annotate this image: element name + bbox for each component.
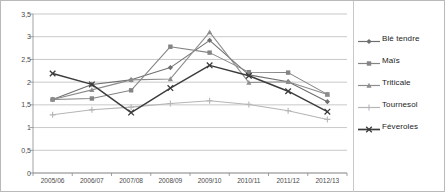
x-axis-tick-label: 2009/10 (198, 177, 222, 185)
legend-marker-icon (357, 55, 381, 66)
legend-label: Tournesol (382, 100, 418, 109)
legend-label: Triticale (382, 78, 411, 87)
x-axis-tick-label: 2005/06 (41, 177, 65, 185)
data-point-marker (50, 112, 56, 118)
y-axis-tick-label: 1,5 (5, 101, 31, 108)
legend-item-3[interactable]: Triticale (357, 71, 445, 93)
x-axis-tick-label: 2008/09 (158, 177, 182, 185)
x-axis-tick-label: 2011/12 (276, 177, 299, 185)
legend-item-5[interactable]: Féveroles (357, 115, 445, 137)
data-point-marker (366, 38, 371, 43)
x-axis-tick-label: 2010/11 (237, 177, 260, 185)
legend-label: Blé tendre (382, 34, 419, 43)
data-point-marker (367, 61, 371, 65)
data-point-marker (366, 104, 372, 110)
legend-marker-icon (357, 121, 381, 132)
data-point-marker (286, 70, 290, 74)
x-axis-tick-label: 2006/07 (80, 177, 104, 185)
data-point-marker (90, 96, 94, 100)
y-axis-tick-label: 3 (5, 33, 31, 40)
legend-marker-icon (357, 99, 381, 110)
series-4 (50, 98, 331, 123)
data-point-marker (207, 98, 213, 104)
legend-item-4[interactable]: Tournesol (357, 93, 445, 115)
legend-label: Maïs (382, 56, 400, 65)
legend-marker-icon (357, 77, 381, 88)
legend-item-2[interactable]: Maïs (357, 49, 445, 71)
data-point-marker (168, 85, 174, 91)
y-axis-tick-label: 3,5 (5, 11, 31, 18)
data-point-marker (129, 88, 133, 92)
data-point-marker (325, 109, 331, 115)
chart-legend: Blé tendreMaïsTriticaleTournesolFéverole… (353, 1, 445, 192)
y-axis-tick-label: 2,5 (5, 56, 31, 63)
legend-label: Féveroles (382, 122, 418, 131)
data-point-marker (246, 101, 252, 107)
data-point-marker (207, 29, 212, 34)
data-point-marker (325, 99, 330, 104)
plot-area (1, 1, 351, 192)
y-axis-tick-label: 2 (5, 79, 31, 86)
chart-plot-svg (1, 1, 351, 192)
data-point-marker (207, 50, 211, 54)
legend-marker-icon (357, 33, 381, 44)
x-axis: 2005/062006/072007/082008/092009/102010/… (33, 173, 347, 187)
x-axis-tick-label: 2007/08 (119, 177, 143, 185)
chart-container: 00,511,522,533,5 2005/062006/072007/0820… (0, 0, 445, 192)
data-point-marker (168, 45, 172, 49)
y-axis: 00,511,522,533,5 (1, 1, 31, 192)
data-point-marker (324, 116, 330, 122)
data-point-marker (128, 110, 134, 116)
y-axis-tick-label: 0 (5, 170, 31, 177)
data-point-marker (167, 100, 173, 106)
data-point-marker (285, 108, 291, 114)
y-axis-tick-label: 1 (5, 124, 31, 131)
legend-item-1[interactable]: Blé tendre (357, 27, 445, 49)
series-2 (50, 45, 329, 102)
y-axis-tick-label: 0,5 (5, 147, 31, 154)
x-axis-tick-label: 2012/13 (315, 177, 339, 185)
data-point-marker (89, 107, 95, 113)
